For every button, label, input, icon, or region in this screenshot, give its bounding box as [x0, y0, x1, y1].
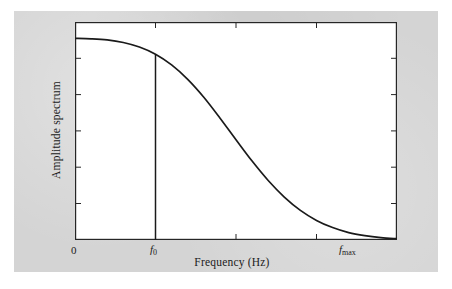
x-tick-label-f0: f0 [150, 244, 157, 257]
y-axis-title: Amplitude spectrum [50, 30, 62, 230]
x-axis-title: Frequency (Hz) [0, 256, 452, 268]
amplitude-spectrum-curve [75, 38, 397, 238]
x-tick-label-zero: 0 [71, 245, 77, 256]
x-tick-label-fmax: fmax [339, 244, 356, 257]
plot-area [75, 22, 397, 240]
plot-frame [76, 23, 397, 240]
x-axis-title-text: Frequency (Hz) [194, 256, 269, 268]
x-axis-ticks [156, 234, 317, 239]
y-axis-right-ticks [391, 58, 396, 203]
x-axis-top-ticks [156, 23, 317, 28]
figure-root: introduction to signal processing 4.1 [0, 0, 452, 289]
y-axis-ticks [76, 58, 81, 203]
amplitude-spectrum-plot [75, 22, 397, 240]
